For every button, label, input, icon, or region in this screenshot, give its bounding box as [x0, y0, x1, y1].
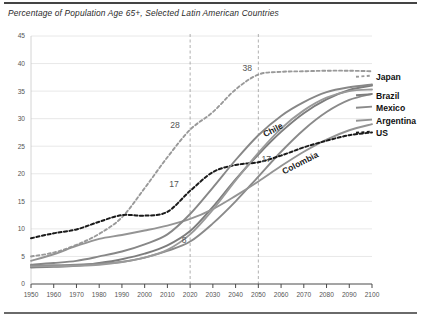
- x-tick-label: 1970: [69, 291, 84, 298]
- y-axis-tick-labels: 051015202530354045: [18, 32, 26, 287]
- legend-swatch-argentina: [356, 120, 372, 121]
- x-tick-label: 1990: [115, 291, 130, 298]
- value-label: 8: [182, 235, 187, 245]
- x-tick-label: 2090: [342, 291, 357, 298]
- x-tick-label: 2080: [319, 291, 334, 298]
- legend-swatch-brazil: [356, 94, 372, 95]
- x-tick-label: 2000: [137, 291, 152, 298]
- y-tick-label: 45: [18, 32, 26, 39]
- axis-lines: [31, 36, 372, 284]
- x-tick-label: 2010: [160, 291, 175, 298]
- x-tick-label: 1960: [46, 291, 61, 298]
- figure-container: Percentage of Population Age 65+, Select…: [0, 0, 421, 317]
- legend-label-mexico: Mexico: [376, 103, 405, 113]
- chart-legend: JapanBrazilMexicoArgentinaUS: [356, 72, 416, 138]
- x-axis-ticks: [31, 284, 372, 288]
- value-label: 17: [169, 179, 179, 189]
- x-tick-label: 2020: [183, 291, 198, 298]
- legend-label-us: US: [376, 128, 388, 138]
- series-line-argentina: [31, 124, 372, 261]
- x-tick-label: 2040: [228, 291, 243, 298]
- y-tick-label: 40: [18, 60, 26, 67]
- series-lines: [31, 71, 372, 268]
- y-tick-label: 30: [18, 115, 26, 122]
- x-tick-label: 2030: [206, 291, 221, 298]
- value-label: 28: [170, 120, 180, 130]
- x-tick-label: 2070: [296, 291, 311, 298]
- line-chart-plot: 1950196019701980199020002010202020302040…: [0, 0, 421, 317]
- y-tick-label: 25: [18, 143, 26, 150]
- x-tick-label: 1950: [24, 291, 39, 298]
- legend-label-argentina: Argentina: [376, 116, 416, 126]
- legend-label-brazil: Brazil: [376, 91, 399, 101]
- series-line-chile: [31, 85, 372, 265]
- legend-label-japan: Japan: [376, 72, 401, 82]
- y-tick-label: 10: [18, 225, 26, 232]
- y-tick-label: 5: [21, 253, 25, 260]
- legend-swatch-japan: [356, 76, 372, 77]
- x-axis-tick-labels: 1950196019701980199020002010202020302040…: [24, 291, 380, 298]
- x-tick-label: 2060: [274, 291, 289, 298]
- x-tick-label: 1980: [92, 291, 107, 298]
- y-tick-label: 20: [18, 170, 26, 177]
- value-label: 38: [243, 63, 253, 73]
- value-label: 17: [262, 154, 272, 164]
- legend-swatch-us: [356, 132, 372, 133]
- x-tick-label: 2100: [365, 291, 380, 298]
- bottom-divider-rule: [4, 312, 417, 314]
- x-tick-label: 2050: [251, 291, 266, 298]
- y-tick-label: 35: [18, 88, 26, 95]
- legend-swatch-mexico: [356, 107, 372, 108]
- y-tick-label: 0: [21, 280, 25, 287]
- series-line-brazil: [31, 86, 372, 268]
- y-tick-label: 15: [18, 198, 26, 205]
